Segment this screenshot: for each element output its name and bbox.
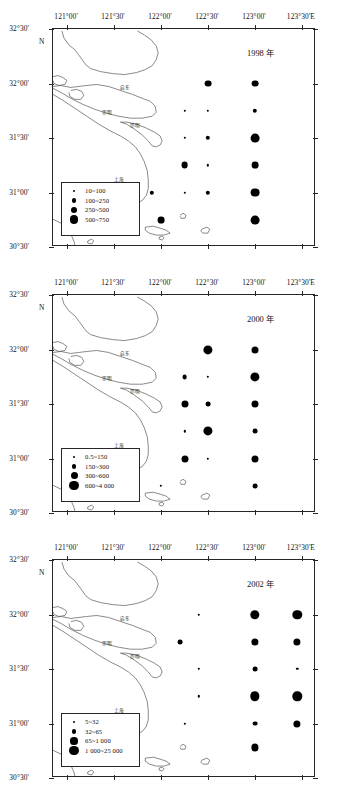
x-tick: [255, 25, 256, 30]
y-tick: [313, 669, 318, 670]
y-tick: [313, 84, 318, 85]
legend-symbol-icon: [66, 481, 82, 490]
y-axis-tick-label: 32°00': [9, 609, 29, 618]
x-tick: [161, 775, 162, 780]
data-point: [149, 190, 153, 194]
y-tick: [49, 350, 54, 351]
place-name-label: 崇明: [102, 109, 112, 115]
x-tick: [208, 244, 209, 249]
data-point: [253, 109, 257, 113]
x-tick: [114, 244, 115, 249]
legend-symbol-icon: [66, 198, 82, 202]
legend-row: 300~600: [66, 471, 135, 481]
y-axis-tick-label: 31°00': [9, 187, 29, 196]
place-name-label: 崇明: [130, 388, 140, 394]
legend-row: 0.5~150: [66, 452, 135, 462]
y-tick: [49, 615, 54, 616]
x-tick: [67, 556, 68, 561]
legend-symbol-icon: [66, 721, 82, 723]
data-point: [181, 455, 188, 462]
x-tick: [67, 291, 68, 296]
data-point: [293, 692, 302, 701]
y-tick: [313, 560, 318, 561]
data-point: [197, 613, 199, 615]
x-tick: [255, 556, 256, 561]
legend-row: 500~750: [66, 215, 135, 225]
data-point: [296, 668, 298, 670]
data-point: [253, 429, 258, 434]
legend-label: 300~600: [85, 472, 109, 479]
x-axis-tick-label: 121°30': [101, 278, 124, 287]
north-indicator: N: [39, 568, 44, 577]
data-point: [203, 427, 212, 436]
legend-2002: 5~3232~6565~1 0001 000~25 000: [61, 713, 140, 767]
legend-row: 10~100: [66, 186, 135, 196]
y-tick: [313, 193, 318, 194]
y-tick: [49, 29, 54, 30]
legend-row: 100~250: [66, 196, 135, 206]
data-point: [160, 485, 162, 487]
legend-2000: 0.5~150150~300300~600600~4 000: [61, 448, 140, 502]
x-axis-tick-label: 121°00': [54, 278, 77, 287]
x-tick: [302, 556, 303, 561]
x-tick: [255, 244, 256, 249]
x-tick: [161, 510, 162, 515]
data-point: [197, 668, 199, 670]
map-panel-1998: 121°00'121°30'122°00'122°30'123°00'123°3…: [0, 0, 349, 266]
y-axis-tick-label: 32°30': [9, 555, 29, 564]
data-point: [251, 638, 258, 645]
x-tick: [114, 510, 115, 515]
data-point: [250, 372, 259, 381]
place-name-label: 崇明: [130, 122, 140, 128]
y-axis-tick-label: 32°30': [9, 24, 29, 33]
x-axis-tick-label: 123°00': [242, 543, 265, 552]
data-point: [251, 455, 258, 462]
x-tick: [67, 25, 68, 30]
data-point: [158, 216, 165, 223]
legend-label: 5~32: [85, 718, 99, 725]
y-tick: [49, 138, 54, 139]
x-tick: [67, 510, 68, 515]
x-tick: [67, 244, 68, 249]
y-axis-tick-label: 30°30': [9, 773, 29, 782]
data-point: [251, 188, 260, 197]
y-tick: [313, 778, 318, 779]
y-tick: [49, 459, 54, 460]
x-tick: [161, 244, 162, 249]
legend-symbol-icon: [66, 729, 82, 734]
x-tick: [208, 291, 209, 296]
x-axis-tick-label: 122°30': [195, 278, 218, 287]
x-tick: [161, 291, 162, 296]
x-tick: [302, 775, 303, 780]
y-axis-tick-label: 31°30': [9, 133, 29, 142]
legend-label: 100~250: [85, 197, 109, 204]
legend-label: 10~100: [85, 187, 106, 194]
x-axis-tick-label: 121°30': [101, 543, 124, 552]
legend-symbol-icon: [66, 464, 82, 469]
data-point: [183, 191, 185, 193]
x-tick: [255, 510, 256, 515]
data-point: [181, 401, 188, 408]
x-tick: [302, 291, 303, 296]
x-tick: [114, 25, 115, 30]
legend-row: 250~500: [66, 205, 135, 215]
legend-symbol-icon: [66, 472, 82, 479]
data-point: [205, 80, 212, 87]
x-tick: [208, 775, 209, 780]
x-axis-tick-label: 122°00': [148, 278, 171, 287]
x-axis-tick-label: 123°00': [242, 278, 265, 287]
x-tick: [67, 775, 68, 780]
legend-label: 0.5~150: [85, 453, 107, 460]
legend-label: 1 000~25 000: [85, 747, 123, 754]
x-axis-tick-label: 121°00': [54, 12, 77, 21]
data-point: [293, 610, 302, 619]
y-tick: [49, 560, 54, 561]
data-point: [253, 483, 258, 488]
x-axis-tick-label: 122°00': [148, 12, 171, 21]
y-tick: [313, 724, 318, 725]
place-name-label: 启东: [120, 350, 130, 356]
y-axis-tick-label: 30°30': [9, 242, 29, 251]
y-tick: [49, 247, 54, 248]
x-axis-tick-label: 123°30'E: [287, 12, 315, 21]
y-tick: [49, 404, 54, 405]
